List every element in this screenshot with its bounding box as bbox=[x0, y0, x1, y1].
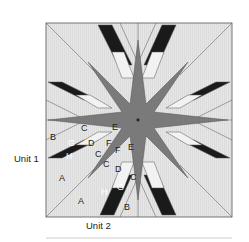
svg-text:C: C bbox=[95, 149, 102, 159]
svg-text:H: H bbox=[101, 187, 108, 197]
svg-text:G: G bbox=[117, 182, 124, 192]
svg-text:F: F bbox=[106, 138, 112, 148]
svg-text:E: E bbox=[112, 122, 118, 132]
svg-text:E: E bbox=[128, 142, 134, 152]
svg-text:A: A bbox=[59, 173, 65, 183]
svg-text:D: D bbox=[88, 138, 95, 148]
quilt-diagram: B C E G D F H C E F C D C G H A A B Unit… bbox=[0, 0, 249, 242]
svg-text:B: B bbox=[50, 132, 56, 142]
svg-text:C: C bbox=[130, 172, 137, 182]
svg-text:D: D bbox=[115, 164, 122, 174]
svg-text:A: A bbox=[78, 196, 84, 206]
svg-text:F: F bbox=[115, 145, 121, 155]
unit-1-label: Unit 1 bbox=[14, 153, 39, 164]
svg-text:C: C bbox=[103, 159, 110, 169]
svg-text:B: B bbox=[124, 202, 130, 212]
svg-text:C: C bbox=[81, 123, 88, 133]
svg-text:H: H bbox=[66, 151, 73, 161]
svg-text:G: G bbox=[68, 138, 75, 148]
unit-2-label: Unit 2 bbox=[86, 220, 111, 231]
